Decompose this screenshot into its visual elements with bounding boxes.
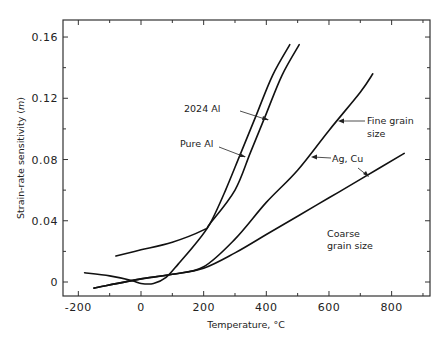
- chart: -200020040060080000.040.080.120.16 Tempe…: [0, 0, 447, 343]
- series-2024-al: [85, 45, 290, 284]
- arrowhead-agcu-fine: [311, 155, 317, 160]
- x-tick-label: 0: [137, 301, 145, 314]
- y-tick-label: 0: [51, 276, 59, 289]
- axis-tick-labels: -200020040060080000.040.080.120.16: [32, 31, 403, 314]
- annotations: [219, 111, 368, 176]
- annotation-ag-cu: Ag, Cu: [332, 153, 363, 164]
- y-tick-label: 0.12: [32, 92, 59, 105]
- series-ag-cu-fine-grain-size: [94, 74, 373, 288]
- series-ag-cu-coarse-grain-size: [94, 153, 404, 288]
- annotation-fine-grain: Fine grain: [367, 115, 414, 126]
- data-series: [85, 45, 405, 288]
- y-axis-label: Strain-rate sensitivity (m): [15, 97, 26, 219]
- x-tick-label: -200: [65, 301, 92, 314]
- x-tick-label: 600: [318, 301, 341, 314]
- plot-frame: [63, 20, 430, 296]
- x-tick-label: 200: [192, 301, 215, 314]
- y-tick-label: 0.04: [32, 215, 59, 228]
- annotation-coarse: Coarse: [327, 228, 360, 239]
- annotation-2024-al: 2024 Al: [184, 103, 220, 114]
- axis-ticks: [63, 20, 430, 296]
- annotation-pure-al: Pure Al: [180, 138, 213, 149]
- x-axis-label: Temperature, °C: [206, 319, 285, 330]
- x-tick-label: 800: [380, 301, 403, 314]
- arrowhead-pure: [239, 153, 246, 157]
- y-tick-label: 0.16: [32, 31, 59, 44]
- annotation-fine-grain-2: size: [367, 128, 386, 139]
- arrow-heads: [239, 116, 369, 177]
- annotation-coarse-2: grain size: [327, 240, 373, 251]
- x-tick-label: 400: [255, 301, 278, 314]
- y-tick-label: 0.08: [32, 154, 59, 167]
